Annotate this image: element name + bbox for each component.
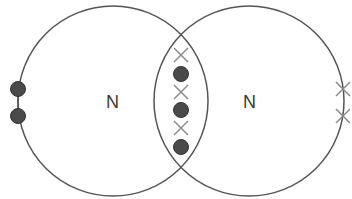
shared-electron-cross-2 [174,85,188,99]
nitrogen-molecule-diagram: N N [0,0,352,199]
shared-electron-cross-1 [174,48,188,62]
right-atom-label: N [243,92,256,112]
shared-electron-dot-3 [174,140,189,155]
left-atom-label: N [106,92,119,112]
left-electron-dot-2 [11,109,26,124]
shared-electron-dot-2 [174,103,189,118]
left-electron-dot-1 [11,82,26,97]
shared-electron-dot-1 [174,67,189,82]
shared-electron-cross-3 [174,121,188,135]
